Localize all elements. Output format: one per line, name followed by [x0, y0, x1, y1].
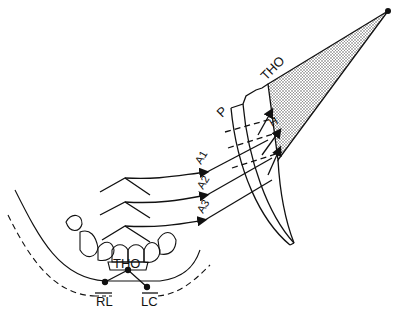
label-a3: A3 [194, 197, 211, 215]
label-p: P [214, 103, 231, 120]
chevrons [100, 178, 150, 242]
label-a1: A1 [192, 148, 209, 166]
projection-cone [268, 8, 391, 160]
label-lc: LC [141, 294, 158, 309]
diagram-canvas: H A1 A2 A3 P THO THO [0, 0, 393, 309]
rl-lc-markers [95, 268, 158, 294]
apex-point [385, 8, 391, 14]
label-a2: A2 [194, 173, 211, 191]
label-rl: RL [96, 294, 113, 309]
